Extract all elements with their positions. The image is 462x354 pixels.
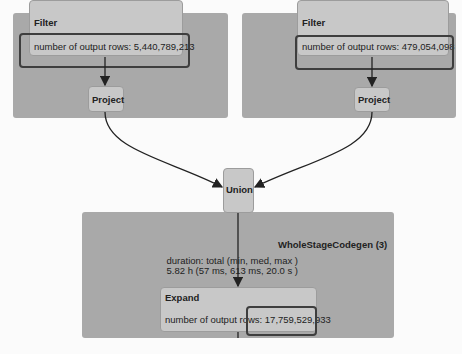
edge-left-project-to-union [105, 112, 222, 187]
edge-right-project-to-union [255, 112, 372, 187]
edges-layer [0, 0, 462, 354]
